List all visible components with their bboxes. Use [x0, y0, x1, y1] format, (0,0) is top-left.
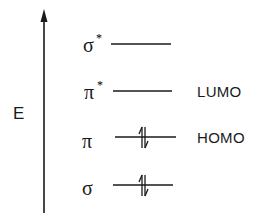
level-label-pi: π: [82, 131, 92, 151]
level-label-pi-star: π: [84, 82, 94, 102]
lumo-label: LUMO: [197, 84, 242, 99]
level-label-sigma-star: σ: [83, 35, 94, 55]
energy-axis-arrow: [41, 9, 48, 213]
level-label-sigma: σ: [82, 178, 93, 198]
homo-label: HOMO: [197, 130, 245, 145]
mo-energy-diagram: E σ * π * LUMO π HOMO σ: [0, 0, 273, 219]
energy-axis-label: E: [13, 105, 24, 122]
level-superscript-sigma-star: *: [96, 31, 102, 46]
level-superscript-pi-star: *: [97, 78, 103, 93]
diagram-graphics: [0, 0, 273, 219]
